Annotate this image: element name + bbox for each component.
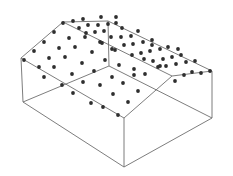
sample-point <box>126 100 130 104</box>
sample-point <box>71 91 75 95</box>
sample-point <box>96 23 100 27</box>
sample-point <box>161 57 165 61</box>
sample-point <box>190 70 194 74</box>
sample-point <box>22 58 26 62</box>
sample-point <box>103 58 107 62</box>
sample-point <box>98 83 102 87</box>
sample-point <box>136 89 140 93</box>
sample-point <box>158 64 162 68</box>
sample-point <box>121 81 125 85</box>
sample-point <box>150 43 154 47</box>
sample-point <box>132 67 136 71</box>
sample-point <box>89 101 93 105</box>
sample-point <box>99 15 103 19</box>
sample-point <box>106 22 110 26</box>
sample-point <box>143 72 147 76</box>
sample-point <box>199 71 203 75</box>
sample-point <box>42 40 46 44</box>
sample-point <box>164 64 168 68</box>
sample-point <box>208 69 212 73</box>
sample-point <box>116 113 120 117</box>
edge-line <box>108 21 109 66</box>
sample-point <box>60 83 64 87</box>
sample-point <box>122 43 126 47</box>
sample-point <box>158 47 162 51</box>
sample-point <box>151 59 155 63</box>
sample-point <box>131 42 135 46</box>
edge-line <box>21 58 124 118</box>
sample-point <box>110 47 114 51</box>
sample-point <box>166 45 170 49</box>
wireframe-edges <box>21 21 212 167</box>
edge-line <box>23 66 109 102</box>
sample-point <box>130 53 134 57</box>
sample-point <box>132 73 136 77</box>
sample-point <box>83 35 87 39</box>
sample-point <box>179 53 183 57</box>
sample-point <box>114 21 118 25</box>
sample-point <box>98 40 102 44</box>
sample-point <box>129 34 133 38</box>
sample-points <box>22 15 212 117</box>
sample-point <box>102 29 106 33</box>
sample-point <box>61 21 65 25</box>
sample-point <box>101 105 105 109</box>
sample-point <box>32 49 36 53</box>
sample-point <box>174 62 178 66</box>
sample-point <box>120 26 124 30</box>
sample-point <box>71 19 75 23</box>
sample-point <box>148 49 152 53</box>
sample-point <box>119 35 123 39</box>
sample-point <box>111 92 115 96</box>
sample-point <box>57 46 61 50</box>
sample-point <box>42 75 46 79</box>
sample-point <box>92 69 96 73</box>
sample-point <box>110 75 114 79</box>
sample-point <box>182 73 186 77</box>
sample-point <box>52 65 56 69</box>
sample-point <box>184 60 188 64</box>
sample-point <box>37 65 41 69</box>
sample-point <box>84 31 88 35</box>
sample-point <box>150 38 154 42</box>
sample-point <box>176 47 180 51</box>
edge-line <box>21 22 63 58</box>
sample-point <box>136 29 140 33</box>
edge-line <box>23 102 124 167</box>
edge-line <box>21 58 23 102</box>
sample-point <box>90 50 94 54</box>
sample-point <box>142 57 146 61</box>
sample-point <box>141 40 145 44</box>
edge-line <box>63 21 108 22</box>
sample-point <box>73 45 77 49</box>
sample-point <box>77 26 81 30</box>
sample-point <box>173 79 177 83</box>
edge-line <box>109 66 212 118</box>
sample-point <box>109 35 113 39</box>
sample-point <box>81 80 85 84</box>
sample-point <box>93 30 97 34</box>
sample-point <box>52 30 56 34</box>
sample-point <box>70 72 74 76</box>
sample-point <box>193 59 197 63</box>
sample-point <box>170 55 174 59</box>
sample-point <box>86 23 90 27</box>
sample-point <box>67 36 71 40</box>
edge-line <box>124 118 212 167</box>
sample-point <box>63 55 67 59</box>
roof-box-diagram <box>0 0 233 176</box>
sample-point <box>139 51 143 55</box>
sample-point <box>114 15 118 19</box>
sample-point <box>80 61 84 65</box>
edge-line <box>124 76 172 118</box>
sample-point <box>81 17 85 21</box>
sample-point <box>117 63 121 67</box>
sample-point <box>47 56 51 60</box>
edge-line <box>63 22 172 76</box>
